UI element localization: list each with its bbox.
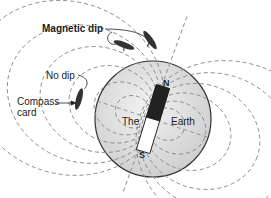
label-compass: Compass (17, 96, 59, 107)
label-no-dip: No dip (46, 70, 75, 81)
label-south-pole: S (139, 150, 145, 161)
label-magnetic-dip: Magnetic dip (42, 23, 103, 34)
magnetic-field-diagram: Magnetic dip No dip Compass card The Ear… (0, 0, 271, 198)
label-north-pole: N (163, 78, 170, 89)
label-the: The (122, 116, 139, 127)
compass-magnetic-dip-steep (139, 29, 159, 52)
compass-no-dip (73, 88, 84, 111)
label-earth: Earth (171, 116, 195, 127)
label-card: card (17, 107, 36, 118)
compass-magnetic-dip-slight (112, 38, 136, 54)
